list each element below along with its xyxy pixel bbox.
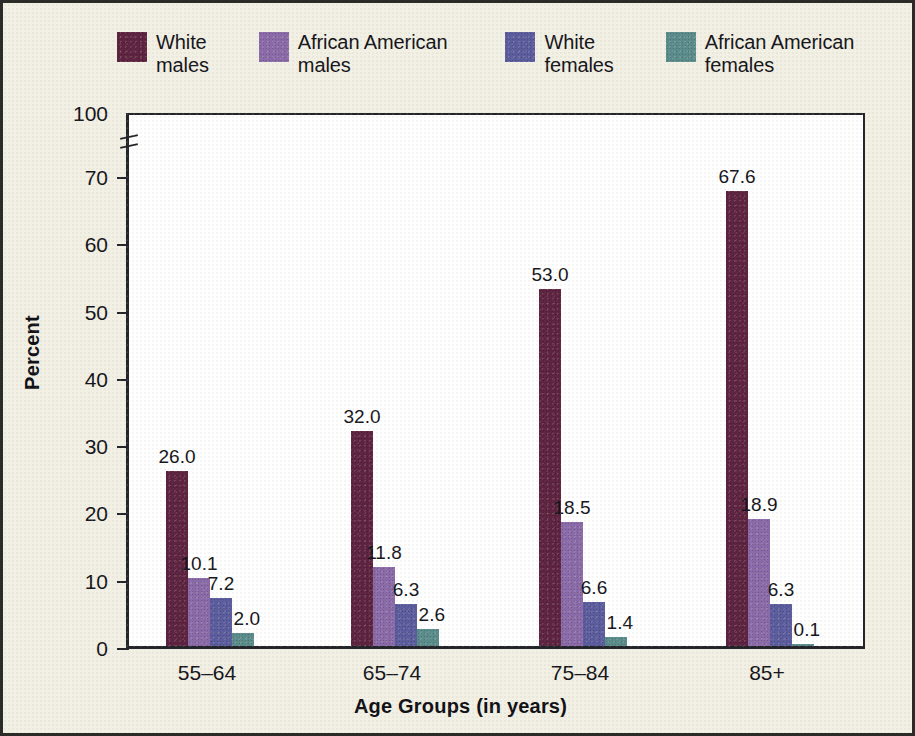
legend-label-white-males: White males: [156, 31, 209, 77]
bar-fill: [726, 191, 748, 646]
y-axis-title: Percent: [21, 293, 44, 413]
bar-value-label: 1.4: [607, 612, 633, 634]
y-tick-label: 70: [85, 166, 108, 190]
bar-value-label: 0.1: [794, 619, 820, 641]
y-tick-label: 20: [85, 502, 108, 526]
bar-value-label: 7.2: [208, 573, 234, 595]
bar: 6.3: [395, 604, 417, 646]
bar-value-label: 6.3: [768, 579, 794, 601]
bar: 67.6: [726, 191, 748, 646]
bar: 6.3: [770, 604, 792, 646]
bar-fill: [748, 519, 770, 646]
x-tick-label-65–74: 65–74: [363, 661, 421, 685]
bar: 2.0: [232, 633, 254, 646]
y-tick-50: 50: [117, 312, 129, 314]
y-tick-label: 100: [73, 102, 108, 126]
bar-fill: [792, 644, 814, 646]
bar-fill: [395, 604, 417, 646]
y-tick-30: 30: [117, 446, 129, 448]
legend-item-white-males: White males: [117, 31, 209, 77]
bar: 2.6: [417, 629, 439, 646]
y-tick-label: 0: [96, 637, 108, 661]
y-tick-label: 10: [85, 570, 108, 594]
legend-item-african-american-females: African American females: [666, 31, 855, 77]
plot-area: 010203040506070100 26.010.17.22.032.011.…: [126, 113, 865, 649]
y-tick-label: 40: [85, 368, 108, 392]
bar-fill: [583, 602, 605, 646]
bar-value-label: 6.6: [581, 577, 607, 599]
bar-fill: [232, 633, 254, 646]
legend-swatch-african-american-females: [666, 32, 696, 62]
bar: 32.0: [351, 431, 373, 646]
bar: 0.1: [792, 644, 814, 646]
bar: 7.2: [210, 598, 232, 646]
y-tick-label: 60: [85, 233, 108, 257]
bar-value-label: 18.9: [741, 494, 778, 516]
legend-label-african-american-males: African American males: [298, 31, 448, 77]
bar-fill: [351, 431, 373, 646]
bar-value-label: 26.0: [159, 446, 196, 468]
bar-value-label: 2.0: [234, 608, 260, 630]
chart-legend: White males African American males White…: [109, 31, 869, 93]
bar: 1.4: [605, 637, 627, 646]
bar-fill: [770, 604, 792, 646]
bar: 18.5: [561, 522, 583, 646]
x-tick-label-55–64: 55–64: [178, 661, 236, 685]
bar-fill: [539, 289, 561, 646]
bar: 11.8: [373, 567, 395, 646]
bar-fill: [373, 567, 395, 646]
bar-fill: [561, 522, 583, 646]
bar-fill: [605, 637, 627, 646]
y-tick-20: 20: [117, 513, 129, 515]
legend-item-white-females: White females: [505, 31, 613, 77]
y-tick-label: 30: [85, 435, 108, 459]
legend-swatch-african-american-males: [259, 32, 289, 62]
x-tick-label-75–84: 75–84: [551, 661, 609, 685]
bar-value-label: 11.8: [366, 542, 402, 564]
bar-value-label: 18.5: [554, 497, 591, 519]
bar-value-label: 6.3: [393, 579, 419, 601]
bar: 18.9: [748, 519, 770, 646]
x-tick-label-85+: 85+: [749, 661, 785, 685]
bar: 53.0: [539, 289, 561, 646]
bar-value-label: 2.6: [419, 604, 445, 626]
bar-group-75–84: 53.018.56.61.4: [539, 115, 627, 646]
y-tick-0: 0: [117, 648, 129, 650]
bar-group-65–74: 32.011.86.32.6: [351, 115, 439, 646]
bar-fill: [210, 598, 232, 646]
bar-fill: [417, 629, 439, 646]
legend-label-white-females: White females: [544, 31, 613, 77]
bar: 6.6: [583, 602, 605, 646]
chart-figure: White males African American males White…: [0, 0, 915, 736]
legend-label-african-american-females: African American females: [705, 31, 855, 77]
bar-value-label: 32.0: [344, 406, 381, 428]
legend-item-african-american-males: African American males: [259, 31, 448, 77]
bar: 10.1: [188, 578, 210, 646]
x-axis-title: Age Groups (in years): [3, 695, 915, 718]
bar-group-55–64: 26.010.17.22.0: [166, 115, 254, 646]
y-tick-10: 10: [117, 581, 129, 583]
bar-value-label: 53.0: [532, 264, 569, 286]
y-tick-40: 40: [117, 379, 129, 381]
y-tick-60: 60: [117, 244, 129, 246]
axis-break-icon: [120, 132, 138, 154]
bar-fill: [188, 578, 210, 646]
legend-swatch-white-males: [117, 32, 147, 62]
y-tick-70: 70: [117, 177, 129, 179]
y-tick-label: 50: [85, 301, 108, 325]
legend-swatch-white-females: [505, 32, 535, 62]
bar-value-label: 67.6: [719, 166, 756, 188]
bar-group-85+: 67.618.96.30.1: [726, 115, 814, 646]
